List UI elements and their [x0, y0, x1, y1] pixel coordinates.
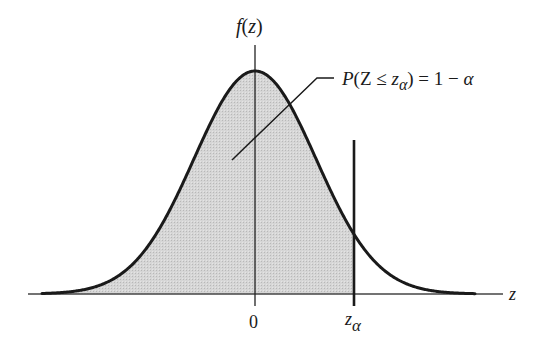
tick-label-zero: 0 — [249, 312, 258, 332]
normal-distribution-figure: f(z) z 0 zα P(Z ≤ zα) = 1 − α — [0, 0, 545, 356]
tick-label-z-alpha: zα — [344, 309, 362, 335]
y-axis-label: f(z) — [236, 15, 263, 38]
x-axis-label: z — [508, 284, 516, 304]
shaded-area — [42, 71, 354, 294]
probability-annotation: P(Z ≤ zα) = 1 − α — [341, 68, 475, 93]
